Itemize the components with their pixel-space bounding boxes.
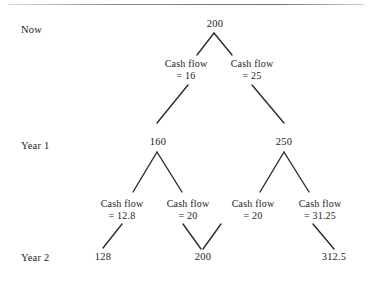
edge-160-down [133, 152, 157, 192]
cash-flow-year1-left-up: Cash flow = 20 [157, 198, 219, 222]
edge-root-up [214, 33, 232, 55]
edge-to-128 [103, 224, 122, 248]
cash-flow-year1-right-up-line1: Cash flow [287, 198, 353, 210]
node-value-128: 128 [91, 251, 115, 263]
binomial-tree-figure: Now Year 1 Year 2 200 160 250 128 200 31… [0, 0, 372, 286]
period-label-year-2: Year 2 [21, 252, 49, 264]
cash-flow-year1-right-down: Cash flow = 20 [222, 198, 284, 222]
cash-flow-year1-left-down: Cash flow = 12.8 [90, 198, 154, 222]
edge-root-down [197, 33, 214, 55]
edge-to-312 [313, 224, 334, 249]
cash-flow-year1-right-up-line2: = 31.25 [287, 210, 353, 222]
node-value-200-terminal: 200 [190, 251, 216, 263]
cash-flow-year1-right-down-line2: = 20 [222, 210, 284, 222]
node-value-160: 160 [146, 136, 170, 148]
cash-flow-now-right-line2: = 25 [221, 70, 283, 82]
edge-to-250 [252, 85, 284, 123]
edge-250-down [260, 152, 284, 192]
node-value-312-5: 312.5 [317, 251, 351, 263]
cash-flow-year1-left-up-line1: Cash flow [157, 198, 219, 210]
node-value-root: 200 [203, 18, 227, 30]
cash-flow-now-right: Cash flow = 25 [221, 58, 283, 82]
header-rule [8, 4, 364, 5]
cash-flow-year1-right-up: Cash flow = 31.25 [287, 198, 353, 222]
cash-flow-year1-left-down-line1: Cash flow [90, 198, 154, 210]
cash-flow-year1-left-up-line2: = 20 [157, 210, 219, 222]
node-value-250: 250 [272, 136, 296, 148]
edge-to-160 [157, 85, 188, 123]
edge-250-up [284, 152, 309, 192]
tree-edges [0, 0, 372, 286]
cash-flow-year1-right-down-line1: Cash flow [222, 198, 284, 210]
cash-flow-now-left: Cash flow = 16 [155, 58, 217, 82]
cash-flow-year1-left-down-line2: = 12.8 [90, 210, 154, 222]
edge-160-up [157, 152, 182, 192]
edge-to-200-right [203, 224, 221, 249]
cash-flow-now-right-line1: Cash flow [221, 58, 283, 70]
period-label-now: Now [21, 24, 42, 36]
period-label-year-1: Year 1 [21, 140, 49, 152]
cash-flow-now-left-line2: = 16 [155, 70, 217, 82]
cash-flow-now-left-line1: Cash flow [155, 58, 217, 70]
edge-to-200-left [183, 224, 201, 249]
